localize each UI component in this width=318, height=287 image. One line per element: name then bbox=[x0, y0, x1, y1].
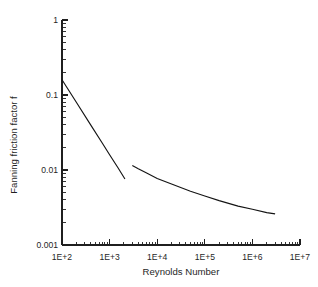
x-tick-label: 1E+4 bbox=[147, 252, 168, 262]
data-curves bbox=[62, 80, 275, 214]
x-tick-label: 1E+2 bbox=[52, 252, 73, 262]
y-axis-group: 10.10.010.001 bbox=[36, 15, 68, 250]
x-axis-group: 1E+21E+31E+41E+51E+61E+7 bbox=[52, 239, 311, 262]
friction-factor-chart: 10.10.010.001 1E+21E+31E+41E+51E+61E+7 R… bbox=[0, 0, 318, 287]
y-axis-tick-labels: 10.10.010.001 bbox=[36, 15, 58, 250]
chart-figure: 10.10.010.001 1E+21E+31E+41E+51E+61E+7 R… bbox=[0, 0, 318, 287]
laminar-region-line bbox=[62, 80, 125, 179]
y-axis-title: Fanning friction factor f bbox=[8, 96, 19, 194]
x-tick-label: 1E+7 bbox=[290, 252, 311, 262]
x-axis-tick-labels: 1E+21E+31E+41E+51E+61E+7 bbox=[52, 252, 311, 262]
turbulent-region-line bbox=[132, 165, 275, 213]
x-tick-label: 1E+5 bbox=[195, 252, 216, 262]
x-axis-major-ticks bbox=[62, 239, 300, 245]
y-tick-label: 1 bbox=[53, 15, 58, 25]
x-axis-title: Reynolds Number bbox=[143, 266, 221, 277]
y-tick-label: 0.01 bbox=[41, 165, 58, 175]
x-tick-label: 1E+6 bbox=[242, 252, 263, 262]
y-axis-major-ticks bbox=[62, 20, 68, 245]
x-tick-label: 1E+3 bbox=[99, 252, 120, 262]
y-tick-label: 0.1 bbox=[46, 90, 58, 100]
y-tick-label: 0.001 bbox=[36, 240, 58, 250]
